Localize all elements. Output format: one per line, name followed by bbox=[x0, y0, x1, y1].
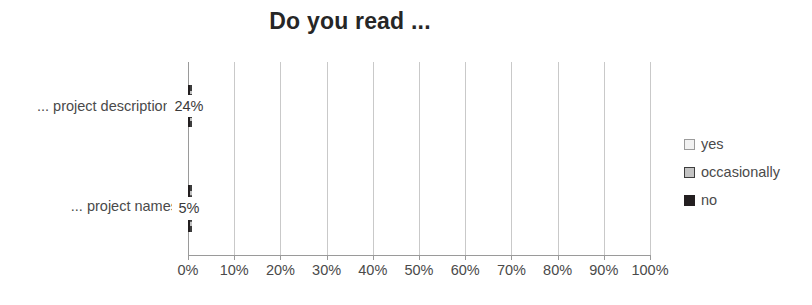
legend-label: no bbox=[701, 192, 717, 208]
gridline bbox=[604, 62, 605, 255]
x-axis-tick-mark bbox=[373, 255, 374, 260]
x-axis-tick-mark bbox=[280, 255, 281, 260]
gridline bbox=[234, 62, 235, 255]
gridline bbox=[511, 62, 512, 255]
x-axis-tick-mark bbox=[327, 255, 328, 260]
legend-swatch-no-icon bbox=[684, 195, 695, 206]
gridline bbox=[419, 62, 420, 255]
legend: yes occasionally no bbox=[684, 130, 812, 214]
gridline bbox=[558, 62, 559, 255]
x-axis-tick-mark bbox=[465, 255, 466, 260]
legend-label: yes bbox=[701, 136, 724, 152]
category-label-project-descriptions: ... project descriptions bbox=[0, 98, 178, 114]
x-axis-tick-mark bbox=[604, 255, 605, 260]
x-axis-tick-mark bbox=[558, 255, 559, 260]
gridline bbox=[280, 62, 281, 255]
bar-segment-value: 5% bbox=[172, 197, 207, 220]
gridline bbox=[650, 62, 651, 255]
bar-segment-no[interactable]: 24% bbox=[188, 85, 190, 127]
gridline bbox=[373, 62, 374, 255]
x-axis-tick-mark bbox=[234, 255, 235, 260]
legend-item-no[interactable]: no bbox=[684, 186, 812, 214]
plot-area: 30% 46% 24% 56% 39% 5% bbox=[188, 62, 650, 255]
x-axis-tick-mark bbox=[188, 255, 189, 260]
bar-segment-value: 24% bbox=[167, 95, 210, 118]
legend-item-occasionally[interactable]: occasionally bbox=[684, 158, 812, 186]
x-axis-tick-mark bbox=[650, 255, 651, 260]
x-axis-tick-mark bbox=[511, 255, 512, 260]
legend-label: occasionally bbox=[701, 164, 780, 180]
bar-segment-no[interactable]: 5% bbox=[188, 185, 190, 232]
gridline bbox=[465, 62, 466, 255]
x-axis-tick-mark bbox=[419, 255, 420, 260]
gridline bbox=[327, 62, 328, 255]
category-label-project-names: ... project names bbox=[0, 198, 178, 214]
legend-swatch-occasionally-icon bbox=[684, 167, 695, 178]
x-axis-tick-label: 100% bbox=[620, 262, 680, 278]
legend-item-yes[interactable]: yes bbox=[684, 130, 812, 158]
legend-swatch-yes-icon bbox=[684, 139, 695, 150]
chart-title: Do you read ... bbox=[0, 8, 700, 35]
